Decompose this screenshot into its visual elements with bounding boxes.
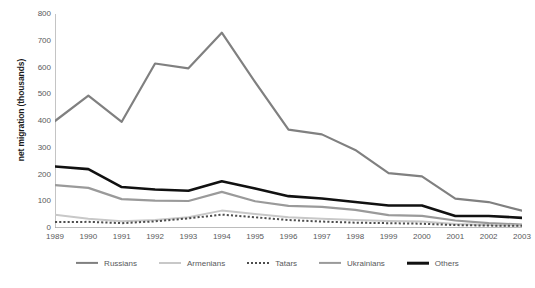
legend-swatch-others-icon bbox=[407, 258, 429, 268]
y-tick-label: 700 bbox=[21, 37, 51, 45]
plot-svg bbox=[55, 14, 522, 228]
legend-item-others[interactable]: Others bbox=[407, 258, 459, 268]
series-line-russians bbox=[55, 33, 522, 211]
net-migration-line-chart: net migration (thousands) 80070060050040… bbox=[0, 0, 535, 288]
page-artifact-bottom bbox=[6, 279, 8, 285]
legend-item-armenians[interactable]: Armenians bbox=[159, 258, 225, 268]
legend-swatch-armenians-icon bbox=[159, 258, 181, 268]
legend-swatch-tatars-icon bbox=[247, 258, 269, 268]
legend-swatch-russians-icon bbox=[76, 258, 98, 268]
legend-label: Ukrainians bbox=[347, 259, 385, 268]
y-tick-label: 800 bbox=[21, 10, 51, 18]
legend-item-tatars[interactable]: Tatars bbox=[247, 258, 297, 268]
legend-item-ukrainians[interactable]: Ukrainians bbox=[319, 258, 385, 268]
y-tick-label: 0 bbox=[21, 224, 51, 232]
page-artifact-top bbox=[40, 2, 42, 8]
y-axis-tick-labels: 8007006005004003002001000 bbox=[17, 14, 51, 228]
legend-label: Tatars bbox=[275, 259, 297, 268]
y-tick-label: 200 bbox=[21, 171, 51, 179]
legend-item-russians[interactable]: Russians bbox=[76, 258, 137, 268]
legend-label: Others bbox=[435, 259, 459, 268]
legend-swatch-ukrainians-icon bbox=[319, 258, 341, 268]
plot-area bbox=[55, 14, 522, 228]
y-tick-label: 600 bbox=[21, 64, 51, 72]
x-axis-tick-labels: 1989199019911992199319941995199619971998… bbox=[55, 232, 522, 244]
y-tick-label: 300 bbox=[21, 144, 51, 152]
chart-legend: RussiansArmeniansTatarsUkrainiansOthers bbox=[0, 258, 535, 268]
legend-label: Armenians bbox=[187, 259, 225, 268]
series-line-armenians bbox=[55, 211, 522, 226]
y-tick-label: 100 bbox=[21, 197, 51, 205]
legend-label: Russians bbox=[104, 259, 137, 268]
y-tick-label: 400 bbox=[21, 117, 51, 125]
y-tick-label: 500 bbox=[21, 90, 51, 98]
series-line-others bbox=[55, 166, 522, 217]
series-line-ukrainians bbox=[55, 185, 522, 224]
x-tick-label: 2003 bbox=[502, 232, 535, 241]
